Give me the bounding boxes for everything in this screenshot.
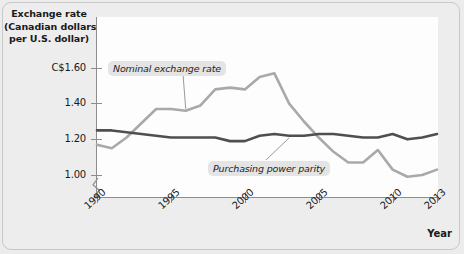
series-line-purchasing-power-parity [97, 130, 437, 141]
leader-line-nominal [183, 74, 186, 109]
annotation-nominal-exchange-rate: Nominal exchange rate [108, 61, 226, 76]
series-lines [0, 0, 464, 254]
chart-figure: Exchange rate (Canadian dollars per U.S.… [0, 0, 464, 254]
leader-line-ppp [266, 138, 289, 160]
annotation-purchasing-power-parity: Purchasing power parity [208, 161, 330, 176]
